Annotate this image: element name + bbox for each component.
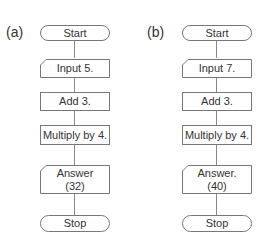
stop-terminal: Stop [182,215,252,232]
connector [216,111,217,125]
connector [74,145,75,165]
output-step: Answer (32) [40,165,110,194]
connector [74,78,75,92]
connector [216,194,217,215]
stop-terminal: Stop [40,215,110,232]
process-multiply-step: Multiply by 4. [182,125,252,145]
connector [74,194,75,215]
process-add-step: Add 3. [182,92,252,111]
flowchart-a-label: (a) [6,24,23,40]
input-step: Input 7. [182,59,252,78]
connector [216,41,217,58]
connector [216,78,217,92]
start-terminal: Start [182,25,252,41]
flowchart-b-label: (b) [147,24,164,40]
process-multiply-step: Multiply by 4. [40,125,110,145]
connector [216,145,217,165]
start-terminal: Start [40,25,110,41]
connector [74,41,75,58]
output-step: Answer. (40) [182,165,252,194]
connector [74,111,75,125]
input-step: Input 5. [40,59,110,78]
process-add-step: Add 3. [40,92,110,111]
